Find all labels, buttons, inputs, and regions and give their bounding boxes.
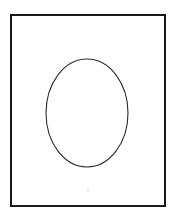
faint-speck [87, 189, 89, 191]
rectangular-border [11, 15, 165, 206]
figure-canvas [0, 0, 176, 212]
oval-outline [46, 59, 128, 167]
ellipse-diagram [0, 0, 176, 212]
